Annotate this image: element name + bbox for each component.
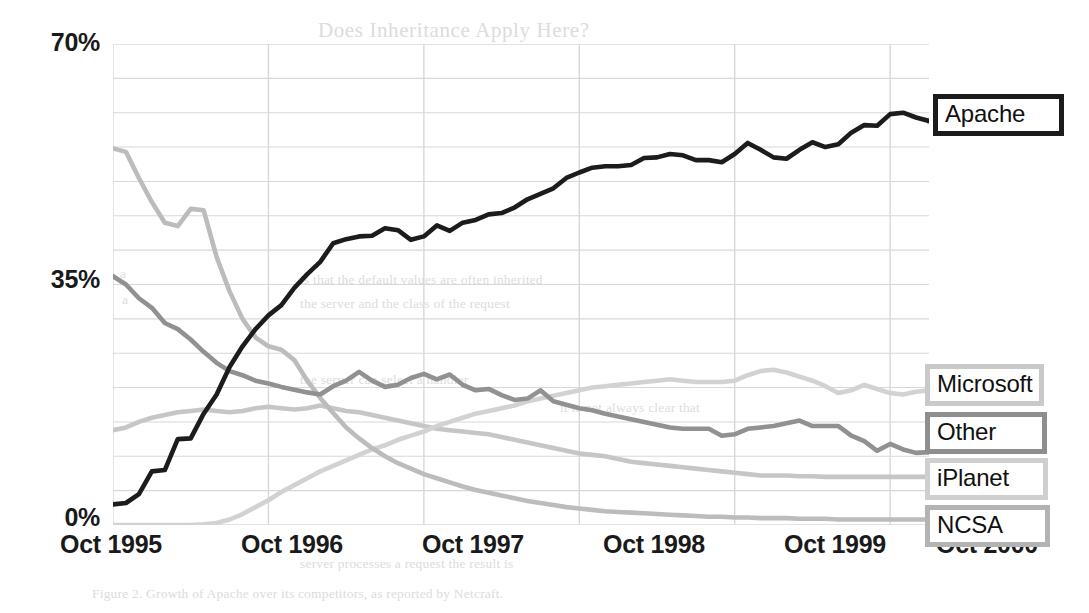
- x-axis-label-0: Oct 1995: [60, 530, 162, 559]
- y-axis-label-35: 35%: [8, 265, 100, 294]
- bleedthrough-text: Figure 2. Growth of Apache over its comp…: [92, 586, 503, 602]
- y-axis-label-0: 0%: [8, 503, 100, 532]
- series-label-other[interactable]: Other: [925, 412, 1047, 454]
- series-line-iplanet: [113, 405, 929, 476]
- gridlines: [113, 44, 929, 525]
- plot-area: [113, 44, 929, 525]
- chart-svg: [113, 44, 929, 525]
- y-axis-label-70: 70%: [8, 28, 100, 57]
- x-axis-label-2: Oct 1997: [422, 530, 524, 559]
- x-axis-label-4: Oct 1999: [784, 530, 886, 559]
- bleedthrough-text: Does Inheritance Apply Here?: [318, 18, 590, 43]
- series-label-ncsa[interactable]: NCSA: [925, 505, 1050, 547]
- series-label-apache[interactable]: Apache: [933, 94, 1064, 136]
- figure-root: Does Inheritance Apply Here?ais that the…: [0, 0, 1089, 613]
- x-axis-label-3: Oct 1998: [603, 530, 705, 559]
- series-label-iplanet[interactable]: iPlanet: [925, 458, 1048, 500]
- x-axis-label-1: Oct 1996: [241, 530, 343, 559]
- series-label-microsoft[interactable]: Microsoft: [925, 364, 1044, 406]
